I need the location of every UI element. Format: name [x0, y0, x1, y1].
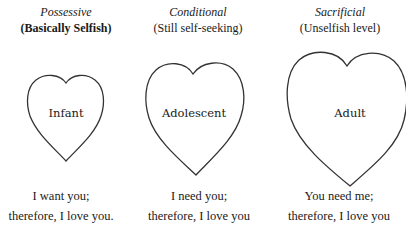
caption-adolescent-line1: I need you; — [148, 186, 250, 206]
stage-label-adult: Adult — [334, 106, 365, 120]
stage-label-adolescent: Adolescent — [162, 106, 226, 120]
caption-infant-line2: therefore, I love you. — [8, 206, 113, 226]
caption-adult-line2: therefore, I love you — [288, 206, 390, 226]
stage-label-infant: Infant — [48, 106, 83, 120]
caption-adult: You need me; therefore, I love you — [288, 186, 390, 226]
caption-infant: I want you; therefore, I love you. — [8, 186, 113, 226]
caption-adolescent: I need you; therefore, I love you — [148, 186, 250, 226]
caption-adolescent-line2: therefore, I love you — [148, 206, 250, 226]
caption-adult-line1: You need me; — [288, 186, 390, 206]
caption-infant-line1: I want you; — [8, 186, 113, 206]
